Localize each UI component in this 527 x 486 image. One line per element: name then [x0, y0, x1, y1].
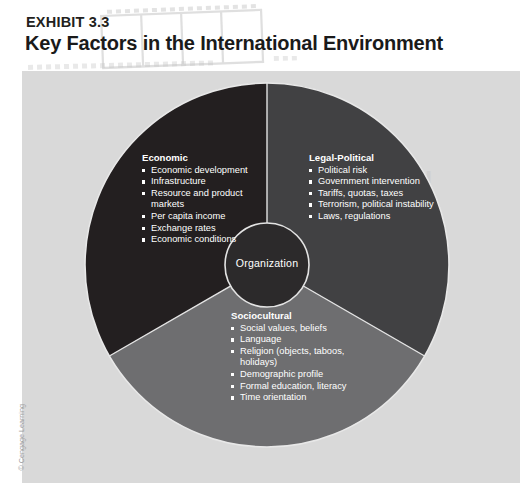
list-item-label: Government intervention [318, 176, 420, 186]
list-item: Time orientation [231, 392, 363, 404]
bullet-icon [309, 192, 312, 195]
bullet-icon [142, 238, 145, 241]
list-item-label: Per capita income [151, 211, 225, 221]
segment-list-sociocultural: Social values, beliefs Language Religion… [231, 323, 363, 404]
bullet-icon [231, 373, 234, 376]
bullet-icon [142, 227, 145, 230]
bullet-icon [309, 215, 312, 218]
list-item-label: Demographic profile [240, 369, 323, 379]
bullet-icon [142, 169, 145, 172]
list-item: Per capita income [142, 211, 260, 223]
bullet-icon [142, 215, 145, 218]
list-item: Political risk [309, 165, 434, 177]
list-item: Laws, regulations [309, 211, 434, 223]
list-item-label: Infrastructure [151, 176, 206, 186]
list-item: Social values, beliefs [231, 323, 363, 335]
exhibit-number: EXHIBIT 3.3 [26, 14, 110, 30]
segment-heading-legal-political: Legal-Political [309, 152, 434, 164]
segment-text-legal-political: Legal-Political Political risk Governmen… [309, 152, 434, 223]
list-item: Tariffs, quotas, taxes [309, 188, 434, 200]
list-item-label: Resource and product markets [151, 188, 242, 210]
bullet-icon [231, 327, 234, 330]
list-item: Infrastructure [142, 176, 260, 188]
copyright-credit: © Cengage Learning [17, 375, 26, 471]
list-item-label: Political risk [318, 165, 367, 175]
list-item: Exchange rates [142, 223, 260, 235]
center-circle-label: Organization [207, 257, 327, 269]
list-item-label: Economic development [151, 165, 248, 175]
bullet-icon [142, 180, 145, 183]
list-item-label: Tariffs, quotas, taxes [318, 188, 403, 198]
bullet-icon [231, 338, 234, 341]
segment-list-economic: Economic development Infrastructure Reso… [142, 165, 260, 246]
page-title: Key Factors in the International Environ… [25, 32, 443, 55]
bullet-icon [231, 385, 234, 388]
segment-heading-economic: Economic [142, 152, 260, 164]
segment-text-sociocultural: Sociocultural Social values, beliefs Lan… [231, 310, 363, 404]
bullet-icon [309, 180, 312, 183]
list-item: Economic development [142, 165, 260, 177]
list-item-label: Economic conditions [151, 234, 236, 244]
list-item-label: Language [240, 334, 281, 344]
list-item: Formal education, literacy [231, 381, 363, 393]
list-item: Government intervention [309, 176, 434, 188]
exhibit-header: EXHIBIT 3.3 Key Factors in the Internati… [0, 0, 527, 72]
bullet-icon [309, 203, 312, 206]
segment-heading-sociocultural: Sociocultural [231, 310, 363, 322]
list-item: Terrorism, political instability [309, 199, 434, 211]
list-item: Resource and product markets [142, 188, 260, 211]
bullet-icon [231, 350, 234, 353]
bullet-icon [142, 192, 145, 195]
filmstrip-decoration-lower [24, 56, 354, 72]
list-item: Religion (objects, taboos, holidays) [231, 346, 363, 369]
list-item-label: Laws, regulations [318, 211, 390, 221]
list-item-label: Social values, beliefs [240, 323, 327, 333]
list-item-label: Formal education, literacy [240, 381, 346, 391]
list-item-label: Religion (objects, taboos, holidays) [240, 346, 344, 368]
segment-text-economic: Economic Economic development Infrastruc… [142, 152, 260, 246]
list-item-label: Exchange rates [151, 223, 216, 233]
list-item-label: Terrorism, political instability [318, 199, 434, 209]
list-item-label: Time orientation [240, 392, 306, 402]
bullet-icon [231, 396, 234, 399]
list-item: Economic conditions [142, 234, 260, 246]
diagram-panel: the International [22, 71, 520, 483]
list-item: Language [231, 334, 363, 346]
list-item: Demographic profile [231, 369, 363, 381]
bullet-icon [309, 169, 312, 172]
segment-list-legal-political: Political risk Government intervention T… [309, 165, 434, 223]
